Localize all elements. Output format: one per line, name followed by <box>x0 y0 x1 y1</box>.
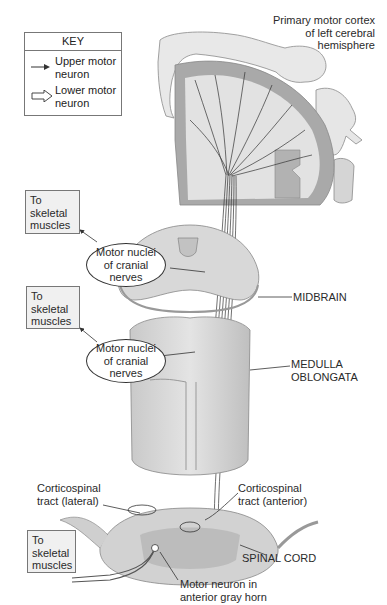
hollow-arrow-icon <box>31 90 53 102</box>
label-line: Corticospinal <box>238 482 307 495</box>
label-motor-neuron: Motor neuron in anterior gray horn <box>180 578 267 603</box>
label-primary-motor-cortex: Primary motor cortex of left cerebral he… <box>273 14 375 52</box>
target-skeletal-muscles-3: To skeletal muscles <box>27 530 76 573</box>
legend-label: Lower motor <box>55 84 116 97</box>
spinal-cord <box>60 508 318 585</box>
label-line: Corticospinal <box>37 482 101 495</box>
cerebral-hemisphere <box>175 61 334 205</box>
label-line: skeletal <box>30 207 75 220</box>
thin-arrow-icon <box>31 62 51 72</box>
label-medulla-oblongata: MEDULLA OBLONGATA <box>291 358 358 383</box>
label-corticospinal-anterior: Corticospinal tract (anterior) <box>238 482 307 507</box>
label-spinal-cord: SPINAL CORD <box>242 552 316 565</box>
label-line: OBLONGATA <box>291 371 358 384</box>
label-line: To <box>31 290 75 303</box>
label-line: To <box>30 194 75 207</box>
label-line: of left cerebral <box>273 27 375 40</box>
medulla-oblongata <box>130 317 250 475</box>
label-line: tract (anterior) <box>238 495 307 508</box>
label-line: skeletal <box>32 547 71 560</box>
legend-label: neuron <box>55 97 116 110</box>
target-skeletal-muscles-2: To skeletal muscles <box>26 286 80 329</box>
label-line: Motor nuclei <box>96 342 156 355</box>
label-line: muscles <box>32 559 71 572</box>
label-line: Primary motor cortex <box>273 14 375 27</box>
legend-label: Upper motor <box>55 55 116 68</box>
target-skeletal-muscles-1: To skeletal muscles <box>25 190 80 234</box>
label-line: nerves <box>96 367 156 380</box>
legend-lower-motor: Lower motor neuron <box>55 84 116 109</box>
label-line: Motor nuclei <box>96 246 156 259</box>
legend-title: KEY <box>25 33 121 51</box>
label-corticospinal-lateral: Corticospinal tract (lateral) <box>37 482 101 507</box>
label-midbrain: MIDBRAIN <box>293 291 347 304</box>
label-line: MEDULLA <box>291 358 358 371</box>
label-line: muscles <box>30 219 75 232</box>
label-line: To <box>32 534 71 547</box>
label-line: hemisphere <box>273 39 375 52</box>
label-line: anterior gray horn <box>180 591 267 604</box>
label-line: nerves <box>96 271 156 284</box>
label-line: Motor neuron in <box>180 578 267 591</box>
legend-key: KEY Upper motor neuron Lower motor neuro… <box>24 32 122 116</box>
legend-label: neuron <box>55 68 116 81</box>
label-line: of cranial <box>96 259 156 272</box>
motor-nuclei-cranial-nerves-1: Motor nuclei of cranial nerves <box>86 243 166 287</box>
label-line: of cranial <box>96 355 156 368</box>
label-line: muscles <box>31 315 75 328</box>
legend-upper-motor: Upper motor neuron <box>55 55 116 80</box>
motor-nuclei-cranial-nerves-2: Motor nuclei of cranial nerves <box>86 339 166 383</box>
label-line: skeletal <box>31 303 75 316</box>
label-line: tract (lateral) <box>37 495 101 508</box>
